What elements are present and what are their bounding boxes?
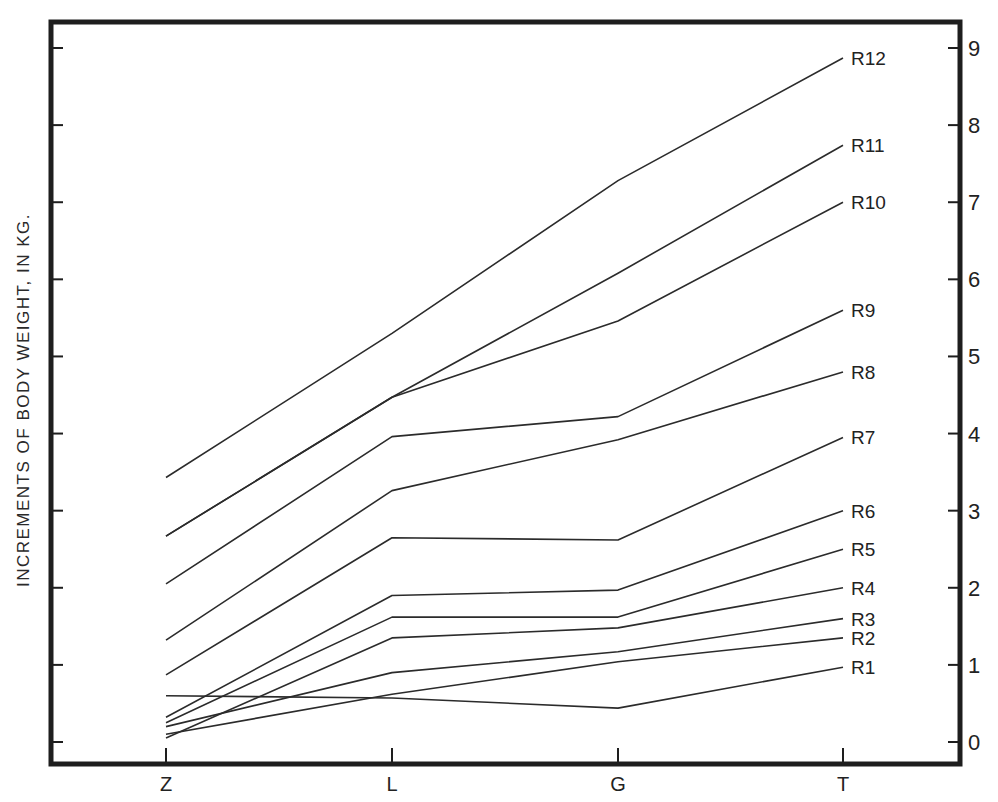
series-label: R7 [851,427,875,448]
y-tick-label: 1 [968,653,980,678]
x-tick-label: G [610,773,626,795]
x-tick-label: T [837,773,849,795]
plot-frame [51,22,960,764]
series-label: R12 [851,48,886,69]
series-line-r11 [166,145,843,536]
series-label: R5 [851,539,875,560]
series-label: R1 [851,657,875,678]
series-labels: R1R2R3R4R5R6R7R8R9R10R11R12 [851,48,886,678]
series-line-r9 [166,310,843,584]
x-tick-label: Z [160,773,172,795]
series-label: R3 [851,609,875,630]
y-tick-label: 5 [968,344,980,369]
series-label: R11 [851,135,884,156]
series-line-r3 [166,619,843,727]
series-line-r12 [166,58,843,478]
x-tick-label: L [386,773,397,795]
right-y-axis: 0123456789 [948,36,980,755]
series-label: R8 [851,362,875,383]
series-label: R2 [851,628,875,649]
series-label: R6 [851,501,875,522]
series-line-r10 [166,202,843,536]
line-chart: 0123456789 ZLGT R1R2R3R4R5R6R7R8R9R10R11… [0,0,998,802]
series-label: R9 [851,300,875,321]
y-tick-label: 9 [968,36,980,61]
y-tick-label: 2 [968,576,980,601]
series-label: R10 [851,192,886,213]
y-tick-label: 0 [968,730,980,755]
series-lines [166,58,843,738]
series-label: R4 [851,578,876,599]
y-tick-label: 4 [968,422,980,447]
y-tick-label: 7 [968,190,980,215]
y-tick-label: 8 [968,113,980,138]
x-axis: ZLGT [160,748,849,795]
y-tick-label: 6 [968,267,980,292]
y-tick-label: 3 [968,499,980,524]
